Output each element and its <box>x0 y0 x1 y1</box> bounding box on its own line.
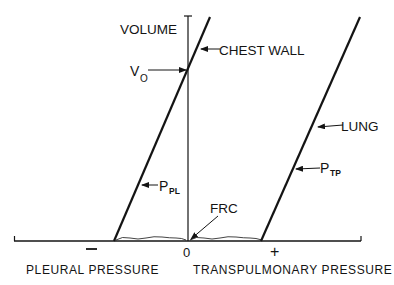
frc-label: FRC <box>210 201 238 216</box>
ptp-subscript: TP <box>330 168 341 178</box>
transpulmonary-pressure-label: TRANSPULMONARY PRESSURE <box>193 263 392 277</box>
frc-wavy-line-right <box>190 237 262 240</box>
ppl-subscript: PL <box>169 186 180 196</box>
ptp-label: P <box>320 160 329 176</box>
lung-label: LUNG <box>341 119 379 134</box>
ppl-label: P <box>159 178 168 194</box>
y-axis-label: VOLUME <box>120 22 177 37</box>
frc-wavy-line-left <box>116 237 186 240</box>
v0-subscript: O <box>140 73 148 84</box>
y-axis <box>184 16 192 241</box>
frc-arrow <box>191 216 218 239</box>
pressure-volume-diagram: VOLUME CHEST WALL V O LUNG P PL P TP FRC… <box>0 0 394 285</box>
plus-sign: + <box>270 243 279 260</box>
lung-arrow <box>318 125 343 127</box>
chest-wall-curve <box>114 17 210 241</box>
chest-wall-label: CHEST WALL <box>219 43 305 58</box>
v0-label: V <box>130 63 140 79</box>
ptp-arrow <box>296 168 320 169</box>
pleural-pressure-label: PLEURAL PRESSURE <box>26 263 159 277</box>
zero-tick-label: 0 <box>183 245 190 260</box>
